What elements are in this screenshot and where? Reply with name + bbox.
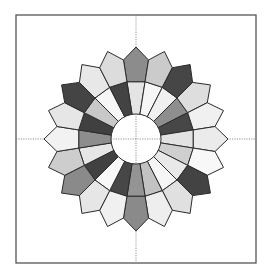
dresden-plate-diagram [0, 0, 270, 278]
